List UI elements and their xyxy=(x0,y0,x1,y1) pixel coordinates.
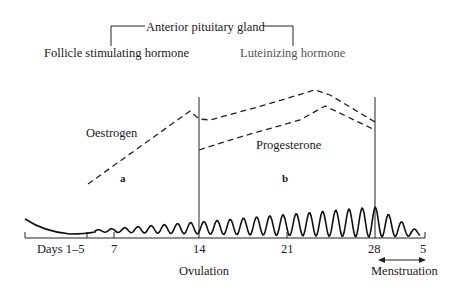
fsh-label: Follicle stimulating hormone xyxy=(44,47,189,60)
lh-label: Luteinizing hormone xyxy=(240,47,345,60)
lh-bracket xyxy=(263,26,293,46)
phase-b-label: b xyxy=(282,173,288,184)
fsh-bracket xyxy=(111,26,145,46)
tick-5: 5 xyxy=(420,243,426,256)
tick-21: 21 xyxy=(281,243,294,256)
menstruation-label: Menstruation xyxy=(371,265,438,278)
ovulation-label: Ovulation xyxy=(179,265,229,278)
progesterone-label: Progesterone xyxy=(256,139,321,152)
tick-days-1-5: Days 1–5 xyxy=(37,243,85,256)
pituitary-label: Anterior pituitary gland xyxy=(146,21,265,34)
tick-28: 28 xyxy=(368,243,381,256)
phase-a-label: a xyxy=(120,173,126,184)
tick-7: 7 xyxy=(111,243,117,256)
oestrogen-label: Oestrogen xyxy=(86,127,137,140)
endometrium-curve xyxy=(25,207,420,237)
tick-14: 14 xyxy=(193,243,206,256)
